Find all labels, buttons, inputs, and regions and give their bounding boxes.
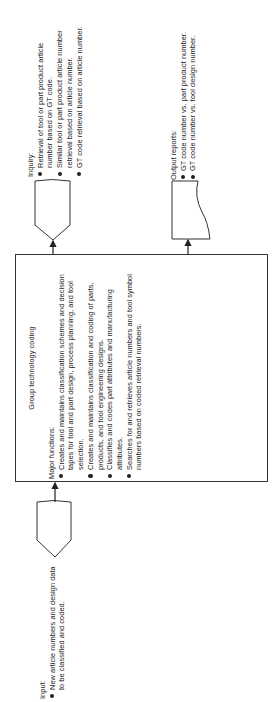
output-heading: Output reports: bbox=[169, 32, 179, 180]
output-report-shape bbox=[172, 181, 210, 239]
function-item: Classifies and codes part attributes and… bbox=[105, 274, 124, 479]
process-function-list: Creates and maintains classification sch… bbox=[57, 274, 144, 479]
input-shape bbox=[37, 501, 71, 558]
function-item: Searches for and retrieves article numbe… bbox=[125, 274, 144, 479]
inquiry-item: GT code retrieval based on article numbe… bbox=[75, 26, 85, 177]
output-text: Output reports: GT code number vs. part … bbox=[169, 32, 198, 180]
inquiry-text: Inquiry: Retrieval of tool or part produ… bbox=[26, 26, 84, 177]
process-functions: Major functions: Creates and maintains c… bbox=[47, 274, 144, 479]
output-item: GT code number vs. part product number. bbox=[179, 32, 189, 180]
process-box: Group technology coding Major functions:… bbox=[15, 254, 268, 482]
inquiry-item: Similar tool or part product article num… bbox=[55, 26, 74, 177]
process-heading: Major functions: bbox=[47, 274, 57, 479]
function-item: Creates and maintains classification sch… bbox=[57, 274, 86, 479]
diagram-canvas: Input: New article numbers and design da… bbox=[0, 0, 276, 702]
input-text: Input: New article numbers and design da… bbox=[38, 566, 67, 699]
function-item: Creates and maintains classification and… bbox=[86, 274, 105, 479]
input-heading: Input: bbox=[38, 566, 48, 699]
inquiry-shape bbox=[35, 180, 70, 241]
input-list: New article numbers and design data to b… bbox=[48, 566, 67, 699]
inquiry-heading: Inquiry: bbox=[26, 26, 36, 177]
input-item: New article numbers and design data to b… bbox=[48, 566, 67, 699]
output-item: GT code number vs. tool design number. bbox=[188, 32, 198, 180]
output-list: GT code number vs. part product number. … bbox=[179, 32, 198, 180]
process-title: Group technology coding bbox=[27, 255, 37, 481]
inquiry-item: Retrieval of tool or part product articl… bbox=[36, 26, 55, 177]
inquiry-list: Retrieval of tool or part product articl… bbox=[36, 26, 85, 177]
